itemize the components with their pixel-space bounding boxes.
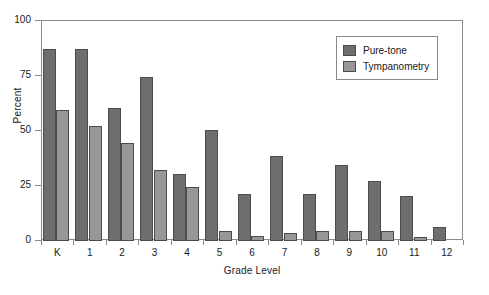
bar bbox=[121, 143, 134, 241]
bar bbox=[75, 49, 88, 241]
bar bbox=[349, 231, 362, 241]
bar bbox=[43, 49, 56, 241]
bar bbox=[186, 187, 199, 241]
x-tick-mark bbox=[138, 240, 139, 245]
x-tick-label: 12 bbox=[427, 247, 467, 258]
bar bbox=[368, 181, 381, 241]
x-tick-mark bbox=[171, 240, 172, 245]
x-tick-mark bbox=[268, 240, 269, 245]
bar bbox=[400, 196, 413, 241]
legend-swatch-pure-tone bbox=[343, 45, 356, 56]
bar bbox=[335, 165, 348, 241]
y-tick-label: 100 bbox=[0, 14, 31, 25]
x-tick-mark bbox=[366, 240, 367, 245]
y-axis-title: Percent bbox=[12, 51, 23, 161]
legend: Pure-tone Tympanometry bbox=[336, 36, 438, 80]
bar bbox=[303, 194, 316, 241]
y-tick-label: 50 bbox=[0, 124, 31, 135]
bar bbox=[433, 227, 446, 241]
bar bbox=[381, 231, 394, 241]
bar bbox=[251, 236, 264, 241]
bar-chart: Percent 0255075100 K123456789101112 Grad… bbox=[0, 0, 489, 295]
x-tick-mark bbox=[463, 240, 464, 245]
x-tick-mark bbox=[73, 240, 74, 245]
x-tick-mark bbox=[106, 240, 107, 245]
x-tick-mark bbox=[41, 240, 42, 245]
legend-swatch-tympanometry bbox=[343, 61, 356, 72]
bar bbox=[316, 231, 329, 241]
x-tick-mark bbox=[301, 240, 302, 245]
x-tick-mark bbox=[333, 240, 334, 245]
bar bbox=[238, 194, 251, 241]
bar bbox=[284, 233, 297, 241]
y-tick-label: 0 bbox=[0, 234, 31, 245]
bar bbox=[56, 110, 69, 241]
bar bbox=[219, 231, 232, 241]
bar bbox=[140, 77, 153, 241]
bar bbox=[270, 156, 283, 241]
bar bbox=[154, 170, 167, 241]
bar bbox=[205, 130, 218, 241]
bar bbox=[108, 108, 121, 241]
legend-label: Tympanometry bbox=[363, 61, 429, 72]
legend-item[interactable]: Tympanometry bbox=[343, 58, 429, 74]
legend-label: Pure-tone bbox=[363, 45, 407, 56]
legend-item[interactable]: Pure-tone bbox=[343, 42, 429, 58]
y-tick-label: 75 bbox=[0, 69, 31, 80]
y-tick-label: 25 bbox=[0, 179, 31, 190]
bar bbox=[173, 174, 186, 241]
bar bbox=[89, 126, 102, 241]
x-tick-mark bbox=[203, 240, 204, 245]
x-tick-mark bbox=[431, 240, 432, 245]
x-tick-mark bbox=[236, 240, 237, 245]
bar bbox=[414, 237, 427, 241]
x-tick-mark bbox=[398, 240, 399, 245]
x-axis-title: Grade Level bbox=[41, 265, 463, 276]
